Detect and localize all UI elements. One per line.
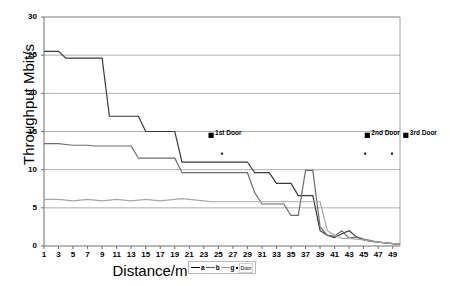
legend-label-g: g	[231, 264, 235, 272]
door-point-marker	[364, 153, 366, 155]
door-label: 3rd Door	[410, 129, 437, 136]
y-tick-label: 5	[11, 203, 37, 212]
door-label: 1st Door	[215, 129, 241, 136]
legend-swatch-door	[236, 267, 238, 269]
y-tick-label: 10	[11, 165, 37, 174]
series-line-b	[44, 144, 400, 245]
y-tick-label: 20	[11, 88, 37, 97]
chart-legend: a b g Door	[188, 261, 256, 274]
legend-swatch-b	[206, 267, 215, 268]
door-square-marker	[403, 133, 408, 138]
door-label: 2nd Door	[371, 129, 400, 136]
legend-swatch-a	[191, 267, 200, 268]
legend-item-door: Door	[236, 263, 254, 273]
legend-swatch-g	[221, 267, 230, 268]
legend-item-a: a	[191, 264, 205, 272]
legend-item-g: g	[221, 264, 235, 272]
door-point-marker	[391, 153, 393, 155]
y-tick-label: 30	[11, 12, 37, 21]
x-tick-label: 49	[384, 250, 402, 259]
y-tick-label: 15	[11, 127, 37, 136]
legend-label-a: a	[201, 264, 205, 272]
door-square-marker	[365, 133, 370, 138]
door-point-marker	[221, 153, 223, 155]
y-tick-label: 0	[11, 241, 37, 250]
legend-item-b: b	[206, 264, 220, 272]
series-line-a	[44, 51, 400, 244]
chart-container: Throughput Mbit/s Distance/m 05101520253…	[0, 0, 450, 286]
door-square-marker	[209, 133, 214, 138]
plot-area	[0, 0, 450, 286]
series-line-g	[44, 199, 400, 245]
y-tick-label: 25	[11, 50, 37, 59]
legend-label-b: b	[216, 264, 220, 272]
legend-label-door: Door	[239, 263, 254, 273]
